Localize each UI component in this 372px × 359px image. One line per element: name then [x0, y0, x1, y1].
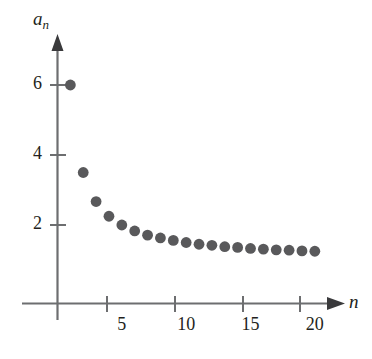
sequence-scatter-figure: an n 5101520246 — [0, 0, 372, 359]
data-point — [297, 246, 308, 257]
data-point — [116, 220, 127, 231]
data-point — [194, 239, 205, 250]
x-tick-label: 10 — [166, 314, 206, 335]
x-axis-label: n — [349, 291, 359, 313]
data-point — [245, 243, 256, 254]
y-axis-arrowhead — [52, 34, 64, 51]
data-point-group — [65, 80, 320, 257]
x-tick-label: 5 — [102, 314, 142, 335]
x-tick-label: 15 — [231, 314, 271, 335]
x-axis-arrowhead — [327, 297, 345, 310]
data-point — [129, 226, 140, 237]
data-point — [232, 242, 243, 253]
data-point — [65, 80, 76, 91]
y-tick-label: 4 — [14, 143, 42, 164]
y-tick-label: 2 — [14, 213, 42, 234]
y-axis-label-base: a — [33, 8, 43, 29]
data-point — [181, 237, 192, 248]
data-point — [258, 244, 269, 255]
y-axis-label: an — [33, 8, 49, 33]
x-tick-label: 20 — [295, 314, 335, 335]
chart-plot-area — [0, 0, 372, 359]
data-point — [142, 230, 153, 241]
data-point — [91, 196, 102, 207]
data-point — [207, 240, 218, 251]
data-point — [78, 167, 89, 178]
data-point — [155, 233, 166, 244]
y-axis-label-subscript: n — [43, 17, 50, 32]
data-point — [271, 244, 282, 255]
y-tick-label: 6 — [14, 73, 42, 94]
data-point — [284, 245, 295, 256]
data-point — [168, 235, 179, 246]
data-point — [219, 241, 230, 252]
data-point — [104, 211, 115, 222]
data-point — [309, 246, 320, 257]
